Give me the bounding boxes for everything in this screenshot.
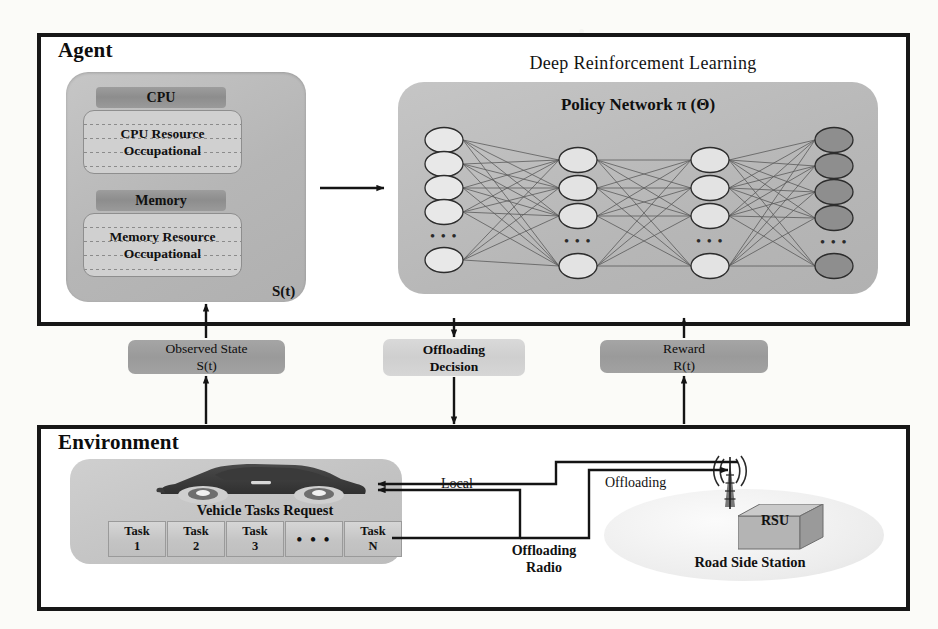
cpu-resource-box: CPU Resource Occupational [83, 110, 242, 174]
task-ellipsis: • • • [297, 532, 332, 547]
task-label-line1: Task [360, 524, 385, 539]
nn-ellipsis-input: • • • [430, 228, 458, 243]
nn-node-hidden2 [691, 176, 729, 201]
local-wire-label: Local [441, 476, 473, 492]
nn-node-output [815, 154, 853, 179]
observed-state-line2: S(t) [196, 357, 216, 374]
memory-resource-line1: Memory Resource [110, 229, 216, 244]
task-label-line2: N [368, 539, 377, 554]
nn-node-hidden1 [559, 254, 597, 279]
policy-network-title: Policy Network π (Θ) [448, 95, 828, 115]
task-label-line2: 2 [193, 539, 199, 554]
task-list: Task 1 Task 2 Task 3 • • • Task N [108, 521, 403, 557]
observed-state-line1: Observed State [165, 340, 247, 357]
nn-node-hidden1 [559, 148, 597, 173]
rsu-label: RSU [738, 513, 812, 529]
task-label-line1: Task [183, 524, 208, 539]
task-item: Task 3 [226, 521, 284, 557]
cpu-resource-line2: Occupational [124, 143, 201, 158]
offloading-radio-line2: Radio [526, 560, 562, 575]
deep-reinforcement-learning-title: Deep Reinforcement Learning [478, 53, 808, 74]
cpu-header-bar: CPU [96, 87, 226, 108]
offloading-radio-label: Offloading Radio [489, 542, 599, 576]
reward-line2: R(t) [673, 357, 695, 374]
nn-node-input [425, 200, 463, 225]
figure-canvas: Agent CPU CPU Resource Occupational Memo… [0, 0, 938, 629]
nn-node-input [425, 176, 463, 201]
task-label-line2: 3 [252, 539, 258, 554]
task-label-line1: Task [124, 524, 149, 539]
memory-resource-box: Memory Resource Occupational [83, 213, 242, 277]
memory-resource-line2: Occupational [124, 246, 201, 261]
road-side-station-caption: Road Side Station [650, 554, 850, 571]
agent-frame-title: Agent [58, 38, 113, 63]
nn-node-hidden1 [559, 176, 597, 201]
nn-ellipsis-hidden1: • • • [564, 233, 592, 248]
cpu-resource-line1: CPU Resource [120, 126, 204, 141]
nn-node-output [815, 128, 853, 153]
cpu-resource-text: CPU Resource Occupational [120, 125, 204, 159]
nn-node-hidden2 [691, 204, 729, 229]
vehicle-icon [155, 462, 370, 507]
nn-node-output [815, 254, 853, 279]
offloading-wire-label: Offloading [605, 475, 666, 491]
task-ellipsis-item: • • • [285, 521, 343, 557]
nn-ellipsis-output: • • • [820, 234, 848, 249]
nn-node-hidden2 [691, 254, 729, 279]
task-item: Task 1 [108, 521, 166, 557]
nn-node-input [425, 152, 463, 177]
nn-node-output [815, 206, 853, 231]
memory-header-bar: Memory [96, 190, 226, 211]
nn-node-output [815, 180, 853, 205]
task-item: Task N [344, 521, 402, 557]
nn-node-hidden1 [559, 204, 597, 229]
offloading-decision-box: Offloading Decision [383, 339, 525, 376]
nn-node-input [425, 248, 463, 273]
offloading-decision-line2: Decision [430, 358, 479, 375]
task-item: Task 2 [167, 521, 225, 557]
antenna-icon [708, 455, 752, 511]
reward-box: Reward R(t) [600, 340, 768, 373]
reward-line1: Reward [663, 340, 705, 357]
task-label-line2: 1 [134, 539, 140, 554]
environment-frame-title: Environment [58, 430, 179, 455]
nn-ellipsis-hidden2: • • • [696, 233, 724, 248]
offloading-decision-line1: Offloading [423, 341, 485, 358]
task-label-line1: Task [242, 524, 267, 539]
offloading-radio-line1: Offloading [512, 543, 577, 558]
nn-node-input [425, 128, 463, 153]
observed-state-box: Observed State S(t) [128, 340, 285, 374]
nn-node-hidden2 [691, 148, 729, 173]
state-time-label: S(t) [272, 283, 295, 300]
vehicle-tasks-request-label: Vehicle Tasks Request [150, 502, 380, 519]
memory-resource-text: Memory Resource Occupational [110, 228, 216, 262]
